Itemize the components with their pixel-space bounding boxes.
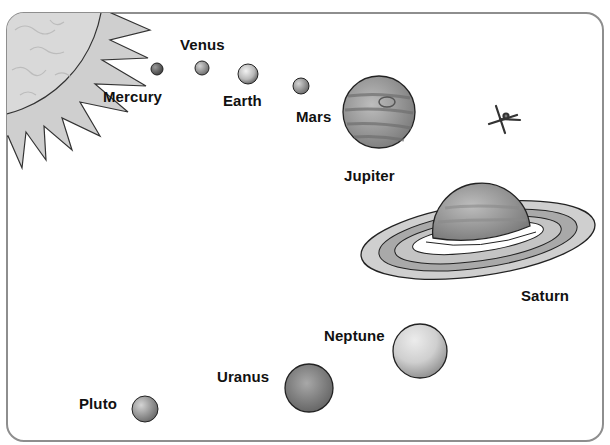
planet-uranus <box>285 364 333 412</box>
label-neptune: Neptune <box>324 327 385 344</box>
planet-earth <box>238 64 258 84</box>
label-jupiter: Jupiter <box>344 167 395 184</box>
label-mars: Mars <box>296 108 331 125</box>
planet-neptune <box>393 324 447 378</box>
label-venus: Venus <box>180 36 225 53</box>
planet-venus <box>195 61 209 75</box>
satellite-icon <box>489 106 520 133</box>
planet-saturn <box>356 183 600 292</box>
label-mercury: Mercury <box>103 88 162 105</box>
planet-mercury <box>151 63 163 75</box>
label-pluto: Pluto <box>79 395 117 412</box>
planet-pluto <box>132 396 158 422</box>
label-saturn: Saturn <box>521 287 569 304</box>
planet-mars <box>293 78 309 94</box>
label-uranus: Uranus <box>217 368 269 385</box>
sun <box>0 0 150 168</box>
solar-system-scene <box>0 0 610 445</box>
label-earth: Earth <box>223 92 262 109</box>
planet-jupiter <box>343 76 415 148</box>
